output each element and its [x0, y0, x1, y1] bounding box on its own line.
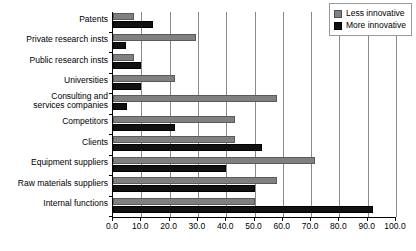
- bar-group: [113, 53, 396, 74]
- category-label: Consulting and services companies: [0, 92, 108, 111]
- bar-less-innovative: [113, 198, 255, 205]
- legend-label: Less innovative: [346, 9, 405, 18]
- bar-less-innovative: [113, 13, 134, 20]
- bar-less-innovative: [113, 54, 134, 61]
- bar-less-innovative: [113, 95, 277, 102]
- bar-less-innovative: [113, 116, 235, 123]
- category-label: Private research insts: [0, 35, 108, 45]
- black-swatch-icon: [334, 22, 342, 30]
- category-label: Universities: [0, 76, 108, 86]
- category-label: Equipment suppliers: [0, 158, 108, 168]
- plot-area: [112, 12, 396, 218]
- category-label: Raw materials suppliers: [0, 179, 108, 189]
- bar-less-innovative: [113, 34, 196, 41]
- bar-group: [113, 135, 396, 156]
- legend-item-more-innovative: More innovative: [334, 20, 406, 31]
- bar-group: [113, 94, 396, 115]
- category-label: Clients: [0, 138, 108, 148]
- bar-rows: [113, 12, 396, 217]
- category-label: Internal functions: [0, 199, 108, 209]
- bar-more-innovative: [113, 165, 226, 172]
- gray-swatch-icon: [334, 10, 342, 18]
- bar-more-innovative: [113, 144, 262, 151]
- bar-group: [113, 115, 396, 136]
- bar-chart: PatentsPrivate research instsPublic rese…: [0, 0, 416, 251]
- category-label: Competitors: [0, 117, 108, 127]
- bar-group: [113, 156, 396, 177]
- gridline: [396, 12, 397, 217]
- value-axis-labels: 0.010.020.030.040.050.060.070.080.090.01…: [0, 221, 416, 235]
- category-axis-labels: PatentsPrivate research instsPublic rese…: [0, 12, 108, 217]
- bar-less-innovative: [113, 157, 315, 164]
- category-label: Patents: [0, 15, 108, 25]
- legend-label: More innovative: [346, 21, 406, 30]
- bar-more-innovative: [113, 83, 141, 90]
- category-label: Public research insts: [0, 56, 108, 66]
- bar-less-innovative: [113, 75, 175, 82]
- bar-less-innovative: [113, 136, 235, 143]
- value-tick-label: 100.0: [375, 221, 415, 232]
- bar-more-innovative: [113, 124, 175, 131]
- chart-legend: Less innovative More innovative: [329, 3, 412, 36]
- bar-more-innovative: [113, 103, 127, 110]
- bar-group: [113, 176, 396, 197]
- bar-less-innovative: [113, 177, 277, 184]
- bar-more-innovative: [113, 42, 126, 49]
- bar-more-innovative: [113, 185, 255, 192]
- bar-more-innovative: [113, 62, 141, 69]
- legend-item-less-innovative: Less innovative: [334, 8, 406, 19]
- bar-group: [113, 74, 396, 95]
- bar-group: [113, 197, 396, 218]
- bar-more-innovative: [113, 21, 153, 28]
- bar-more-innovative: [113, 206, 373, 213]
